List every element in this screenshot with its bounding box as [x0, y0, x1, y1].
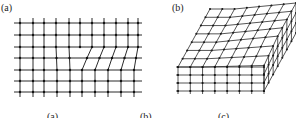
- lattice-diagrams: [0, 0, 296, 118]
- screw-dislocation-lattice: [176, 2, 296, 94]
- edge-dislocation-lattice: [14, 18, 142, 97]
